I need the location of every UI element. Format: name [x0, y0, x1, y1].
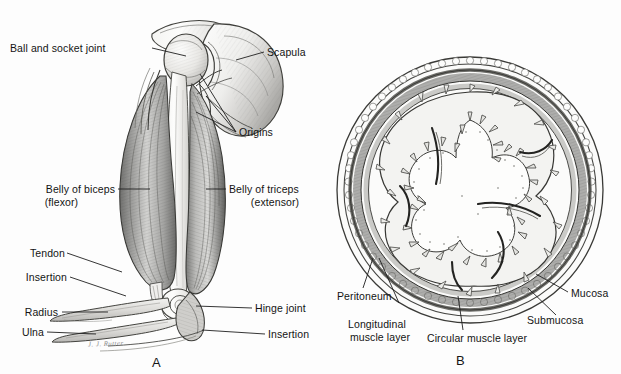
- label-submucosa: Submucosa: [527, 314, 583, 327]
- label-insertion-left: Insertion: [6, 271, 67, 284]
- figure-plate: Ball and socket joint Scapula Origins Be…: [0, 0, 621, 374]
- label-scapula: Scapula: [267, 46, 306, 59]
- label-ulna: Ulna: [8, 326, 44, 339]
- label-insertion-right: Insertion: [268, 328, 309, 341]
- label-peritoneum: Peritoneum: [337, 290, 392, 303]
- label-belly-of-triceps: Belly of triceps: [229, 183, 299, 196]
- label-radius: Radius: [8, 306, 58, 319]
- label-ball-and-socket-joint: Ball and socket joint: [10, 42, 106, 55]
- artist-signature: J. J. Rutter: [88, 339, 124, 348]
- label-tendon: Tendon: [8, 247, 65, 260]
- panel-letter-a: A: [152, 355, 161, 370]
- label-hinge-joint: Hinge joint: [255, 302, 306, 315]
- label-longitudinal-muscle-layer-line2: muscle layer: [343, 331, 417, 344]
- panel-letter-b: B: [456, 353, 465, 368]
- label-belly-of-biceps-sub: (flexor): [8, 196, 115, 209]
- label-belly-of-triceps-sub: (extensor): [229, 196, 321, 209]
- label-longitudinal-muscle-layer-line1: Longitudinal: [348, 318, 406, 331]
- label-belly-of-biceps: Belly of biceps: [8, 183, 115, 196]
- label-circular-muscle-layer: Circular muscle layer: [427, 332, 527, 345]
- label-origins: Origins: [239, 126, 273, 139]
- label-mucosa: Mucosa: [571, 287, 608, 300]
